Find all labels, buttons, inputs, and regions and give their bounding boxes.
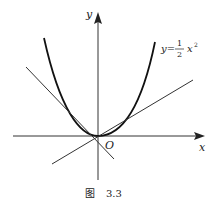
left-tangent-line	[26, 67, 114, 159]
equation-lhs: y=	[160, 43, 175, 54]
parabola-curve	[44, 38, 155, 136]
figure-canvas: y x O y= 1 2 x 2 图 3.3	[0, 0, 214, 206]
equation-frac-num: 1	[177, 39, 182, 48]
right-tangent-line	[52, 80, 193, 164]
equation-rhs: x	[187, 43, 193, 54]
x-axis-label: x	[199, 141, 206, 154]
y-axis-label: y	[85, 8, 93, 21]
figure-caption-number: 3.3	[106, 188, 122, 199]
equation-exponent: 2	[194, 41, 198, 48]
origin-label: O	[105, 139, 114, 152]
figure-caption-prefix: 图	[85, 188, 95, 199]
equation-frac-den: 2	[177, 50, 182, 59]
